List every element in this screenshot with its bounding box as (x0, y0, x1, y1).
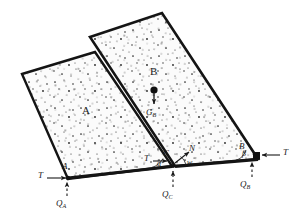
reaction-qc-label: QC (162, 190, 173, 200)
block-a-label: A (82, 105, 90, 116)
tension-mid-label: T (144, 154, 149, 163)
gb-label: GB (146, 108, 156, 118)
tension-right-label: T (283, 148, 288, 157)
reaction-qb-label: QB (240, 180, 250, 190)
figure-root: A B GB A B C N T T T QA QC QB α β w (0, 0, 303, 224)
normal-force-label: N (189, 144, 195, 153)
angle-beta-label: β (242, 150, 246, 158)
vertex-c-marker (171, 164, 175, 168)
vertex-a-marker (66, 176, 70, 180)
angle-w-label: w (187, 159, 192, 167)
tension-left-label: T (38, 171, 43, 180)
vertex-b-marker (253, 152, 260, 159)
vertex-a-label: A (62, 162, 68, 171)
angle-alpha-label: α (157, 160, 161, 168)
vertex-c-label: C (163, 149, 169, 158)
block-b-label: B (150, 66, 157, 77)
reaction-qa-label: QA (56, 199, 66, 209)
